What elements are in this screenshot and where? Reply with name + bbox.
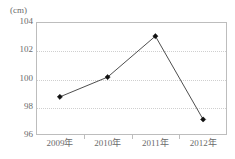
series-markers [57,34,205,123]
y-axis-tick-label: 102 [1,45,33,54]
data-point-marker [201,117,206,122]
y-axis-tick-label: 98 [1,102,33,111]
data-series-layer [36,22,227,135]
x-axis-tick-label: 2009年 [46,138,73,148]
line-chart: (cm) 1041021009896 2009年2010年2011年2012年 [0,0,235,159]
x-axis-tick-label: 2010年 [94,138,121,148]
x-axis-tick-label: 2011年 [142,138,169,148]
y-axis-tick-labels: 1041021009896 [0,22,33,135]
y-axis-unit-label: (cm) [10,5,27,15]
data-point-marker [57,94,62,99]
y-axis-tick-label: 100 [1,74,33,83]
series-line [60,36,203,119]
y-axis-tick-label: 104 [1,17,33,26]
x-axis-tick-labels: 2009年2010年2011年2012年 [36,138,227,152]
y-axis-tick-label: 96 [1,130,33,139]
x-axis-tick-label: 2012年 [190,138,217,148]
